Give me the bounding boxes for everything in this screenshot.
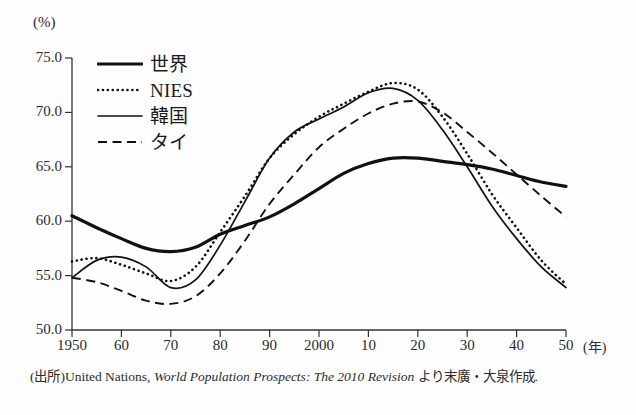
x-tick-label: 50 (559, 337, 574, 354)
source-publisher: United Nations, (65, 369, 154, 384)
source-caption: (出所)United Nations, World Population Pro… (30, 367, 620, 386)
legend-item-1: 世界 (97, 52, 193, 76)
legend-line-swatch (97, 135, 143, 149)
legend-line-swatch (97, 109, 143, 123)
y-axis-unit-label: (%) (33, 14, 56, 31)
legend-label: 世界 (150, 55, 188, 74)
y-tick-label: 75.0 (16, 49, 62, 66)
x-tick-label: 1950 (57, 337, 87, 354)
legend-line-swatch (97, 57, 143, 71)
x-tick-label: 10 (361, 337, 376, 354)
x-tick-label: 80 (213, 337, 228, 354)
x-axis-unit-label: (年) (583, 336, 606, 356)
x-tick-label: 2000 (304, 337, 334, 354)
x-tick-label: 90 (262, 337, 277, 354)
chart-legend: 世界NIES韓国タイ (97, 52, 193, 154)
legend-item-4: タイ (97, 130, 193, 154)
y-tick-label: 60.0 (16, 212, 62, 229)
legend-line-swatch (97, 83, 143, 97)
y-tick-label: 65.0 (16, 158, 62, 175)
source-credit: より末廣・大泉作成. (414, 369, 538, 384)
legend-label: 韓国 (150, 107, 188, 126)
x-tick-label: 40 (509, 337, 524, 354)
legend-label: タイ (150, 133, 188, 152)
legend-item-3: 韓国 (97, 104, 193, 128)
x-tick-label: 60 (114, 337, 129, 354)
y-tick-label: 55.0 (16, 267, 62, 284)
y-tick-label: 70.0 (16, 103, 62, 120)
figure-container: (%) 50.055.060.065.070.075.0 19506070809… (0, 0, 636, 415)
source-title: World Population Prospects: The 2010 Rev… (154, 369, 414, 384)
source-prefix: (出所) (30, 369, 65, 384)
x-tick-label: 70 (163, 337, 178, 354)
legend-item-2: NIES (97, 78, 193, 102)
x-tick-label: 30 (460, 337, 475, 354)
y-tick-label: 50.0 (16, 321, 62, 338)
legend-label: NIES (150, 81, 193, 100)
x-tick-label: 20 (410, 337, 425, 354)
